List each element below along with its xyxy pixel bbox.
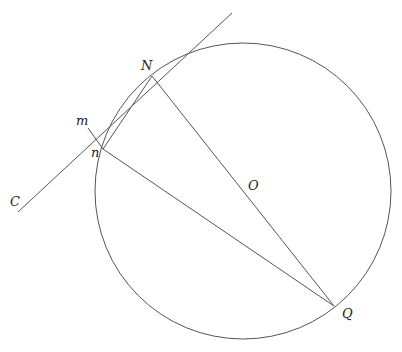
label-N: N bbox=[140, 58, 153, 73]
label-O: O bbox=[248, 178, 259, 193]
label-C: C bbox=[10, 194, 20, 209]
label-m: m bbox=[76, 113, 88, 128]
geometry-figure: N m n C O Q bbox=[0, 0, 402, 352]
label-Q: Q bbox=[342, 306, 353, 321]
chord-n-N bbox=[103, 76, 152, 149]
tangent-line bbox=[18, 13, 232, 212]
diagram-canvas: N m n C O Q bbox=[0, 0, 402, 352]
label-n: n bbox=[91, 145, 99, 160]
chord-nq bbox=[103, 149, 334, 306]
diameter-nq bbox=[152, 76, 334, 306]
